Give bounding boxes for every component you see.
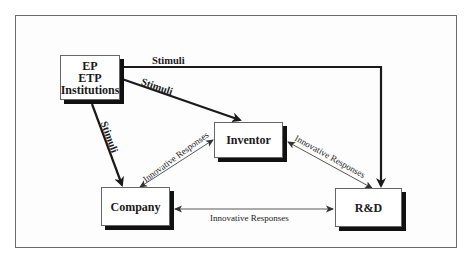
node-rnd: R&D [335, 188, 402, 227]
node-institutions-line-etp: ETP [78, 72, 101, 84]
node-inventor: Inventor [214, 122, 283, 158]
node-company-label: Company [110, 201, 160, 213]
label-stimuli-top: Stimuli [152, 56, 185, 66]
diagram-canvas: EP ETP Institutions Inventor Company R&D… [0, 0, 472, 258]
node-company: Company [101, 187, 170, 226]
node-institutions-line-institutions: Institutions [61, 84, 120, 96]
label-responses-company-rnd: Innovative Responses [210, 213, 289, 223]
node-institutions: EP ETP Institutions [60, 55, 120, 100]
node-inventor-label: Inventor [226, 134, 271, 146]
node-rnd-label: R&D [355, 202, 382, 214]
node-institutions-line-ep: EP [82, 60, 97, 72]
